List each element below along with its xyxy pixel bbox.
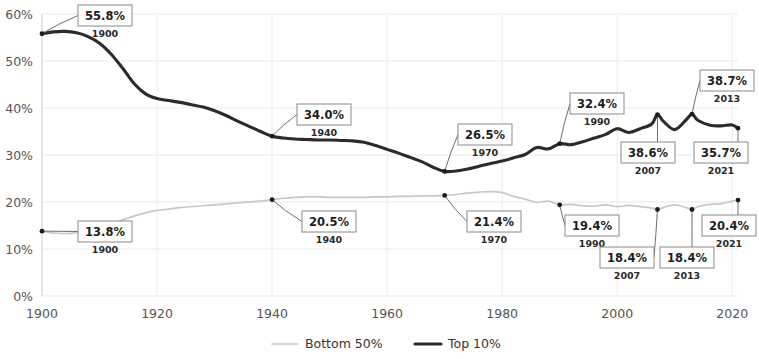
callout-year-text: 1940 (316, 234, 343, 245)
callout-year-text: 1940 (311, 127, 338, 138)
callout-value-text: 18.4% (667, 251, 707, 265)
callout-data-point-marker (690, 112, 695, 117)
callout-value-text: 38.6% (628, 146, 668, 160)
y-tick-label: 20% (5, 195, 33, 210)
x-tick-label: 1960 (371, 306, 403, 321)
x-tick-label: 1920 (141, 306, 173, 321)
legend-label: Top 10% (447, 336, 501, 351)
x-tick-label: 1940 (256, 306, 288, 321)
chart-root: 0%10%20%30%40%50%60% 1900192019401960198… (0, 0, 759, 359)
callout-value-text: 32.4% (577, 97, 617, 111)
x-tick-label: 2000 (601, 306, 633, 321)
x-tick-label: 1980 (486, 306, 518, 321)
callout-data-point-marker (655, 207, 660, 212)
callout-value-text: 26.5% (465, 128, 505, 142)
legend-label: Bottom 50% (305, 336, 383, 351)
callout-value-text: 20.5% (309, 215, 349, 229)
callout-year-text: 2013 (674, 270, 700, 281)
y-tick-label: 40% (5, 101, 33, 116)
callout-year-text: 1900 (92, 28, 119, 39)
y-tick-label: 0% (13, 289, 33, 304)
callout-value-text: 13.8% (85, 225, 125, 239)
callout-data-point-marker (270, 197, 275, 202)
callout-data-point-marker (40, 229, 45, 234)
callout-data-point-marker (736, 126, 741, 131)
y-tick-label: 10% (5, 242, 33, 257)
callout-data-point-marker (655, 112, 660, 117)
callout-year-text: 2007 (614, 270, 640, 281)
callout-value-text: 35.7% (701, 146, 741, 160)
callout-value-text: 55.8% (85, 9, 125, 23)
callout-year-text: 1990 (584, 116, 611, 127)
callout-year-text: 1900 (92, 244, 119, 255)
callout-year-text: 2013 (714, 93, 740, 104)
callout-value-text: 34.0% (304, 108, 344, 122)
callout-year-text: 2021 (708, 165, 734, 176)
callout-year-text: 2007 (635, 165, 661, 176)
callout-value-text: 20.4% (709, 219, 749, 233)
y-tick-label: 50% (5, 54, 33, 69)
callout-data-point-marker (442, 193, 447, 198)
callout-data-point-marker (690, 207, 695, 212)
line-chart: 0%10%20%30%40%50%60% 1900192019401960198… (0, 0, 759, 359)
callout-data-point-marker (736, 198, 741, 203)
callout-data-point-marker (40, 31, 45, 36)
x-tick-label: 2020 (716, 306, 748, 321)
callout-value-text: 21.4% (474, 215, 514, 229)
callout-data-point-marker (557, 202, 562, 207)
callout-year-text: 1970 (472, 147, 499, 158)
y-tick-label: 30% (5, 148, 33, 163)
y-tick-label: 60% (5, 7, 33, 22)
callout-value-text: 38.7% (707, 74, 747, 88)
callout-data-point-marker (557, 141, 562, 146)
callout-value-text: 19.4% (572, 219, 612, 233)
callout-data-point-marker (442, 169, 447, 174)
x-tick-label: 1900 (26, 306, 58, 321)
callout-year-text: 2021 (716, 238, 742, 249)
callout-data-point-marker (270, 134, 275, 139)
callout-value-text: 18.4% (607, 251, 647, 265)
callout-year-text: 1970 (481, 234, 508, 245)
